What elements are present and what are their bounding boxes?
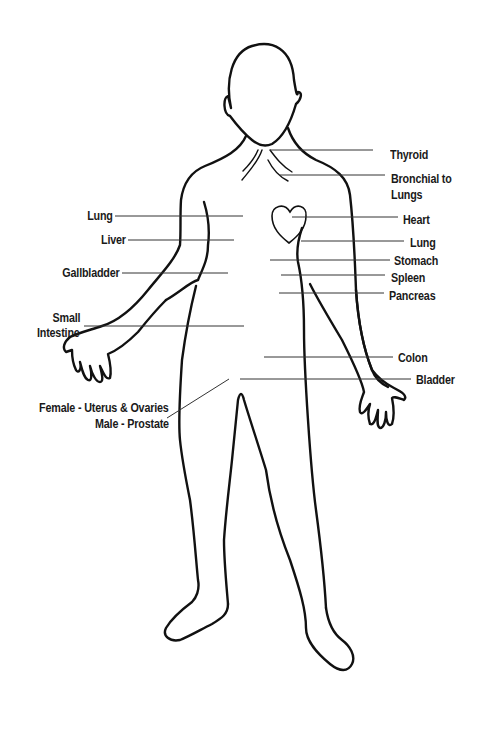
- label-bronchial-line2: Lungs: [391, 188, 422, 202]
- label-spleen: Spleen: [391, 271, 425, 285]
- label-gallbladder: Gallbladder: [63, 266, 120, 280]
- label-thyroid: Thyroid: [390, 148, 428, 162]
- label-heart: Heart: [403, 213, 430, 227]
- label-female-reproductive: Female - Uterus & Ovaries: [39, 401, 169, 415]
- left-torso-side-outline: [165, 286, 228, 640]
- label-bladder: Bladder: [416, 373, 455, 387]
- label-lung-right: Lung: [410, 236, 436, 250]
- torso-right-outline: [288, 128, 388, 387]
- label-lung-left: Lung: [87, 209, 113, 223]
- label-bronchial: Bronchial to: [391, 172, 452, 186]
- label-stomach: Stomach: [394, 254, 438, 268]
- label-small: Small: [52, 311, 80, 325]
- bronchial-mark-1: [243, 150, 258, 171]
- inner-left-leg-outline: [224, 394, 353, 670]
- heart-icon: [272, 206, 306, 243]
- label-intestine: Intestine: [37, 326, 80, 340]
- bronchial-mark-2: [242, 150, 262, 180]
- label-male-reproductive: Male - Prostate: [95, 417, 169, 431]
- right-arm-outline: [310, 284, 405, 428]
- body-diagram: [0, 0, 485, 740]
- bronchial-mark-4: [268, 160, 288, 181]
- label-liver: Liver: [101, 233, 126, 247]
- left-inner-arm-outline: [166, 202, 209, 300]
- label-colon: Colon: [398, 351, 428, 365]
- leader-reproductive: [167, 379, 229, 418]
- label-pancreas: Pancreas: [389, 289, 435, 303]
